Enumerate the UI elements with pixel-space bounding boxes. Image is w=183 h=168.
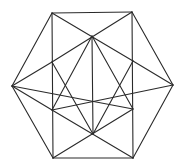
edge-cb-ct: [92, 36, 93, 134]
edge-l-tl: [12, 13, 52, 86]
edge-tl-tr: [52, 12, 132, 13]
edge-r-tr: [132, 12, 173, 85]
edge-ir1-r: [133, 61, 173, 85]
edge-br-r: [133, 85, 173, 158]
hexagon-triangle-grid-diagram: [0, 0, 183, 168]
edge-bl-tl: [52, 13, 53, 158]
edge-br-tr: [132, 12, 133, 158]
edge-bl-l: [12, 86, 53, 158]
